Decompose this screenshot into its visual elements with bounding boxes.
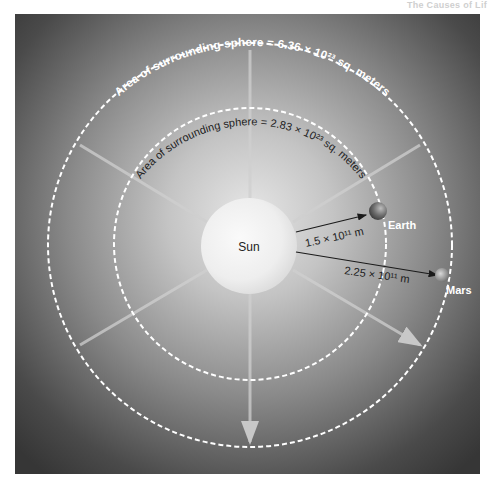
- mars: [435, 268, 449, 282]
- earth: [369, 202, 387, 220]
- sun-label: Sun: [238, 240, 259, 254]
- page-header-text: The Causes of Lif: [407, 0, 487, 10]
- mars-label: Mars: [446, 284, 472, 296]
- sun-sphere-diagram: Sun Area of surrounding sphere = 6.36 × …: [15, 14, 480, 474]
- earth-label: Earth: [388, 219, 416, 231]
